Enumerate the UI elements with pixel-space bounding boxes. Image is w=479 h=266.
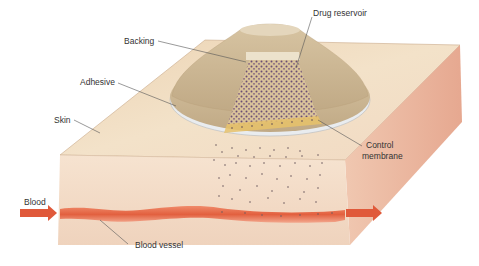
label-skin: Skin bbox=[54, 115, 71, 125]
label-blood: Blood bbox=[24, 197, 46, 207]
label-control-membrane-line2: membrane bbox=[362, 151, 403, 162]
label-control-membrane-line1: Control bbox=[362, 140, 403, 151]
diagram-illustration bbox=[0, 0, 479, 266]
blood-flow-in-arrow bbox=[20, 205, 57, 221]
label-control-membrane: Control membrane bbox=[362, 140, 403, 162]
label-adhesive: Adhesive bbox=[80, 77, 115, 87]
label-backing: Backing bbox=[124, 36, 154, 46]
skin-front-face bbox=[58, 155, 350, 245]
transdermal-patch-diagram: Drug reservoir Backing Adhesive Skin Con… bbox=[0, 0, 479, 266]
label-blood-vessel: Blood vessel bbox=[135, 240, 183, 250]
label-drug-reservoir: Drug reservoir bbox=[313, 8, 367, 18]
